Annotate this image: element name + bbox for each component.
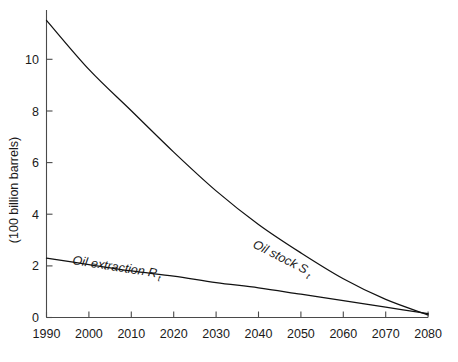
y-tick-label: 6 xyxy=(32,156,39,170)
y-axis-title: (100 billion barrels) xyxy=(7,137,21,243)
y-tick-label: 8 xyxy=(32,105,39,119)
x-tick-label: 2020 xyxy=(160,327,188,341)
x-tick-label: 1990 xyxy=(33,327,61,341)
y-tick-label: 2 xyxy=(32,259,39,273)
x-tick-label: 2010 xyxy=(117,327,145,341)
y-tick-label: 10 xyxy=(25,53,39,67)
x-tick-label: 2040 xyxy=(245,327,273,341)
y-tick-marks xyxy=(47,59,53,317)
series-label-oil-stock-text: Oil stock S xyxy=(251,237,311,277)
chart-figure: 1990 2000 2010 2020 2030 2040 2050 2060 … xyxy=(0,0,458,362)
x-tick-labels: 1990 2000 2010 2020 2030 2040 2050 2060 … xyxy=(33,327,442,341)
x-tick-label: 2080 xyxy=(414,327,442,341)
series-label-oil-stock: Oil stock S t xyxy=(250,237,315,281)
x-tick-label: 2060 xyxy=(329,327,357,341)
x-tick-label: 2050 xyxy=(287,327,315,341)
chart-plot-area: 1990 2000 2010 2020 2030 2040 2050 2060 … xyxy=(0,0,458,362)
y-tick-label: 4 xyxy=(32,208,39,222)
series-label-oil-extraction: Oil extraction R t xyxy=(71,253,162,283)
series-label-oil-extraction-text: Oil extraction R xyxy=(72,253,159,280)
y-tick-labels: 0 2 4 6 8 10 xyxy=(25,53,39,325)
x-tick-marks xyxy=(47,312,429,318)
y-tick-label: 0 xyxy=(32,311,39,325)
x-tick-label: 2030 xyxy=(202,327,230,341)
x-tick-label: 2000 xyxy=(75,327,103,341)
x-tick-label: 2070 xyxy=(372,327,400,341)
